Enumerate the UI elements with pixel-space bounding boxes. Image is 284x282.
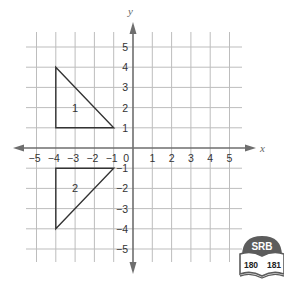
triangle-1 bbox=[56, 67, 114, 128]
y-tick-label: 1 bbox=[122, 122, 128, 134]
y-tick-label: 2 bbox=[122, 102, 128, 114]
axes bbox=[13, 22, 256, 274]
badge-title: SRB bbox=[251, 241, 272, 252]
y-tick-label: −4 bbox=[116, 223, 128, 235]
x-tick-label: −2 bbox=[86, 152, 98, 164]
triangle-label-1: 1 bbox=[72, 102, 78, 114]
x-tick-label: 5 bbox=[227, 152, 233, 164]
x-tick-label: −3 bbox=[67, 152, 79, 164]
arrow-right-icon bbox=[245, 145, 256, 152]
x-tick-label: 3 bbox=[188, 152, 194, 164]
x-tick-label: 2 bbox=[169, 152, 175, 164]
srb-badge: SRB 180 181 bbox=[240, 236, 284, 278]
y-tick-label: 5 bbox=[122, 41, 128, 53]
arrow-down-icon bbox=[130, 262, 137, 274]
x-tick-label: −4 bbox=[48, 152, 60, 164]
y-tick-label: −1 bbox=[116, 162, 128, 174]
x-tick-label: 1 bbox=[149, 152, 155, 164]
y-tick-label: −3 bbox=[116, 203, 128, 215]
x-tick-label: 4 bbox=[207, 152, 213, 164]
arrow-left-icon bbox=[13, 145, 24, 152]
triangle-label-2: 2 bbox=[72, 182, 78, 194]
y-tick-label: −2 bbox=[116, 182, 128, 194]
badge-page-right: 181 bbox=[267, 260, 281, 270]
grid-lines bbox=[26, 32, 242, 262]
y-tick-label: 4 bbox=[122, 61, 128, 73]
y-axis-label: y bbox=[127, 5, 133, 17]
y-tick-label: 3 bbox=[122, 81, 128, 93]
badge-page-left: 180 bbox=[244, 260, 258, 270]
x-axis-label: x bbox=[259, 142, 265, 154]
y-tick-label: −5 bbox=[116, 243, 128, 255]
x-tick-label: −5 bbox=[29, 152, 41, 164]
triangle-2 bbox=[56, 168, 114, 229]
coordinate-plane: 12 −5−4−3−2−11234554321−1−2−3−4−50 x y S… bbox=[0, 0, 284, 282]
arrow-up-icon bbox=[130, 22, 137, 34]
origin-label: 0 bbox=[123, 152, 129, 164]
